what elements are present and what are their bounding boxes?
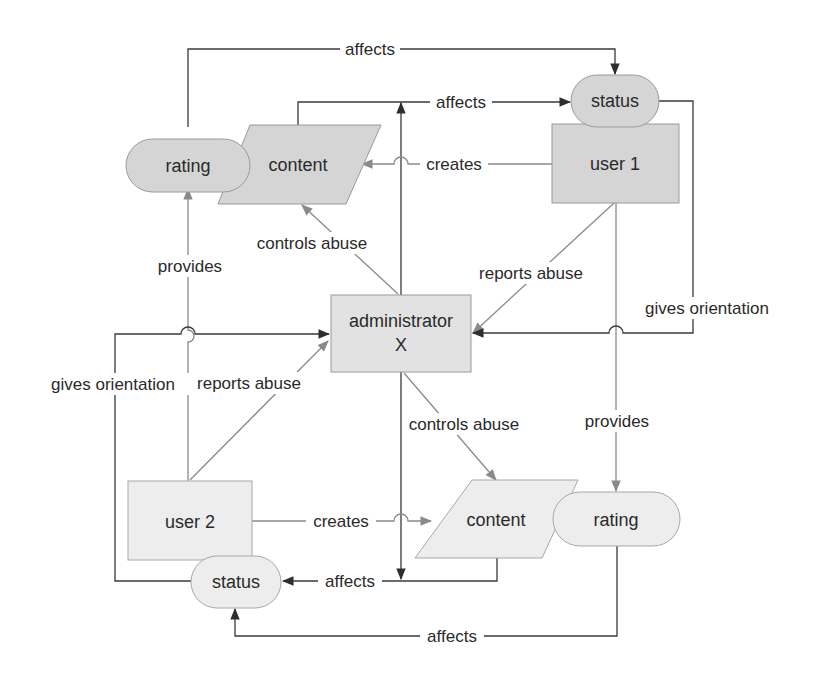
svg-text:administrator: administrator (349, 311, 453, 331)
edge-label: affects (436, 93, 486, 112)
edge-rating-bottom-affects-status-bottom: affects (235, 546, 617, 647)
edge-label: gives orientation (51, 375, 175, 394)
edge-content-bottom-affects-status-bottom: affects (283, 558, 497, 592)
node-user1[interactable]: user 1 (552, 124, 679, 203)
node-user2[interactable]: user 2 (128, 481, 252, 560)
edge-label: reports abuse (197, 374, 301, 393)
edge-content-affects-status-top: affects (298, 91, 570, 125)
edge-label: creates (426, 155, 482, 174)
svg-text:user 2: user 2 (165, 512, 215, 532)
edge-label: provides (585, 412, 649, 431)
svg-text:content: content (268, 155, 327, 175)
edge-user2-reports-admin: reports abuse (190, 341, 328, 480)
node-administrator[interactable]: administrator X (331, 295, 471, 372)
edge-label: controls abuse (257, 234, 368, 253)
node-rating-top[interactable]: rating (126, 139, 250, 192)
edge-label: creates (313, 512, 369, 531)
node-status-top[interactable]: status (571, 75, 659, 127)
edge-label: provides (158, 257, 222, 276)
svg-text:user 1: user 1 (590, 154, 640, 174)
edge-user1-creates-content-top: creates (362, 153, 552, 175)
edge-label: gives orientation (645, 299, 769, 318)
svg-text:content: content (466, 510, 525, 530)
edge-user2-provides-rating-top: provides (150, 189, 230, 481)
edge-label: affects (427, 627, 477, 646)
svg-text:rating: rating (593, 510, 638, 530)
svg-text:status: status (212, 572, 260, 592)
node-status-bottom[interactable]: status (191, 556, 281, 608)
edge-admin-controls-content-bottom: controls abuse (404, 373, 524, 480)
edge-label: controls abuse (409, 415, 520, 434)
node-rating-bottom[interactable]: rating (553, 492, 680, 546)
edge-user1-reports-admin: reports abuse (473, 203, 614, 333)
abuse-control-diagram: affects affects creates controls abuse p… (0, 0, 814, 676)
edge-admin-controls-content-top: controls abuse (252, 205, 398, 294)
svg-text:status: status (591, 91, 639, 111)
edge-label: affects (325, 572, 375, 591)
svg-text:rating: rating (165, 156, 210, 176)
svg-text:X: X (395, 335, 407, 355)
edge-user1-provides-rating-bottom: provides (578, 203, 656, 491)
edge-user2-creates-content-bottom: creates (252, 510, 431, 532)
edge-label: reports abuse (479, 264, 583, 283)
edge-label: affects (345, 40, 395, 59)
